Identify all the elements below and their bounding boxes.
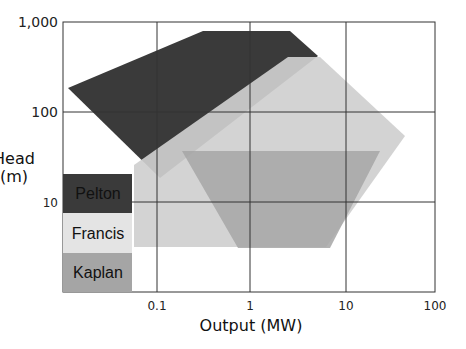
legend-label-kaplan: Kaplan <box>73 264 123 281</box>
y-axis-title-line2: (m) <box>0 167 28 186</box>
x-tick-0.1: 0.1 <box>147 299 166 313</box>
chart: 1,000 100 10 0.1 1 10 100 Output (MW) He… <box>0 0 466 349</box>
legend-label-pelton: Pelton <box>75 185 120 202</box>
y-tick-100: 100 <box>31 104 58 120</box>
legend: Pelton Francis Kaplan <box>63 174 132 292</box>
x-tick-10: 10 <box>338 299 353 313</box>
x-tick-1: 1 <box>246 299 254 313</box>
legend-label-francis: Francis <box>72 225 124 242</box>
y-axis-title-line1: Head <box>0 149 35 168</box>
y-tick-10: 10 <box>43 196 58 210</box>
x-tick-100: 100 <box>424 299 447 313</box>
y-tick-1000: 1,000 <box>18 14 58 30</box>
x-axis-title: Output (MW) <box>200 316 303 335</box>
